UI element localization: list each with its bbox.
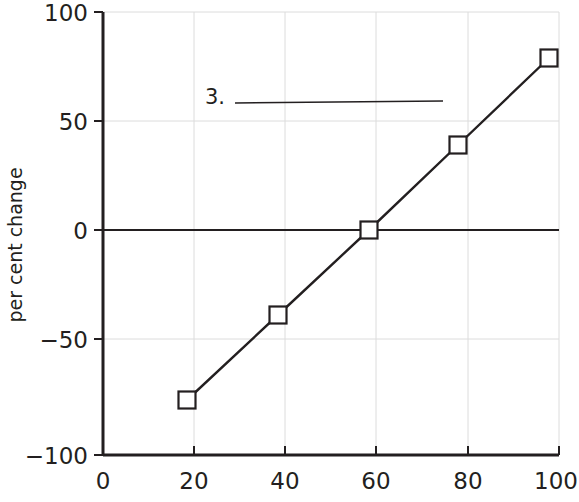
- y-axis-title: per cent change: [4, 167, 26, 322]
- x-tick-label-0: 0: [96, 468, 111, 494]
- line-chart: 100 50 0 −50 −100 0 20 40 60 80 100 per …: [0, 0, 579, 502]
- chart-background: [0, 0, 579, 502]
- chart-container: 100 50 0 −50 −100 0 20 40 60 80 100 per …: [0, 0, 579, 502]
- data-point-marker: [179, 392, 196, 409]
- y-tick-label-minus50: −50: [39, 327, 88, 353]
- data-point-marker: [541, 50, 558, 67]
- x-tick-label-60: 60: [361, 468, 390, 494]
- y-tick-label-minus100: −100: [25, 443, 88, 469]
- x-tick-label-40: 40: [270, 468, 299, 494]
- y-tick-label-0: 0: [73, 218, 88, 244]
- y-tick-label-100: 100: [44, 0, 88, 26]
- legend-item-label-3: 3.: [205, 85, 225, 109]
- data-point-marker: [450, 137, 467, 154]
- y-tick-label-50: 50: [59, 109, 88, 135]
- data-point-marker: [361, 222, 378, 239]
- x-tick-label-100: 100: [534, 468, 578, 494]
- x-tick-label-20: 20: [179, 468, 208, 494]
- data-point-marker: [270, 307, 287, 324]
- x-tick-label-80: 80: [453, 468, 482, 494]
